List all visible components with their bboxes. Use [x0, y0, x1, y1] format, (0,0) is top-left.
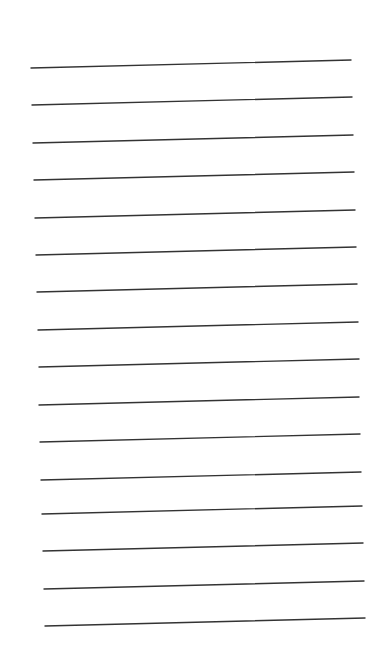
ruled-line [39, 359, 359, 367]
lined-paper-page [0, 0, 377, 666]
ruled-line [43, 543, 363, 551]
ruled-line [41, 472, 361, 480]
ruled-line [35, 210, 355, 218]
ruled-line [33, 135, 353, 143]
ruled-line [39, 397, 359, 405]
ruled-line [45, 618, 365, 626]
ruled-line [34, 172, 354, 180]
ruled-line [44, 581, 364, 589]
ruled-line [31, 60, 351, 68]
ruled-lines [0, 0, 377, 666]
ruled-line [42, 506, 362, 514]
ruled-line [36, 247, 356, 255]
ruled-line [37, 284, 357, 292]
ruled-line [40, 434, 360, 442]
ruled-line [32, 97, 352, 105]
ruled-line [38, 322, 358, 330]
